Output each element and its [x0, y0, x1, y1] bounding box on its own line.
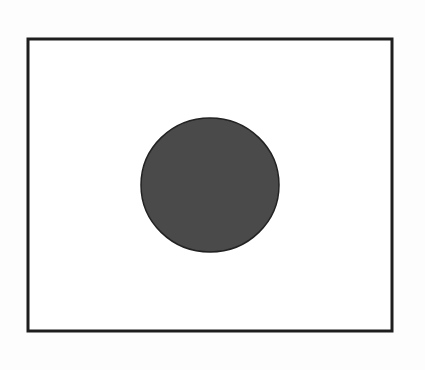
page: [0, 0, 425, 370]
diagram-canvas: [0, 0, 425, 370]
filled-circle: [141, 118, 279, 252]
